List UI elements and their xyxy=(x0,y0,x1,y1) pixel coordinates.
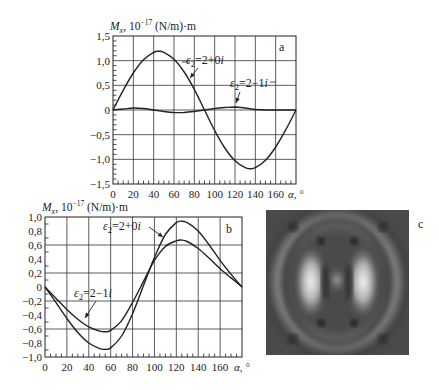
x-tick-label: 120 xyxy=(227,188,244,200)
x-tick-label: 100 xyxy=(206,188,223,200)
svg-text:ε2=2−1i: ε2=2−1i xyxy=(230,76,268,92)
series-annotation: ε2=2+0i xyxy=(103,219,163,237)
y-tick-labels: 1,00,80,60,40,20−0,2−0,4−0,6−0,8−1,0 xyxy=(22,211,42,363)
interference-pattern xyxy=(261,200,413,364)
x-axis-label: α, ° xyxy=(288,188,304,200)
chart-panel-a: 020406080100120140160α, °1,51,00,50−0,5−… xyxy=(90,18,304,200)
y-tick-label: 1,5 xyxy=(96,30,110,42)
svg-text:ε2=2−1i: ε2=2−1i xyxy=(74,286,112,302)
x-tick-label: 40 xyxy=(148,188,160,200)
x-tick-labels: 020406080100120140160 xyxy=(42,361,229,373)
x-tick-label: 20 xyxy=(61,361,73,373)
x-tick-label: 120 xyxy=(168,361,185,373)
y-tick-label: −0,6 xyxy=(22,323,42,335)
interference-image-panel-c: c xyxy=(261,200,423,364)
panel-letter-c: c xyxy=(418,217,423,231)
panel-letter-b: b xyxy=(226,222,232,236)
x-tick-label: 160 xyxy=(267,188,284,200)
y-tick-label: −0,5 xyxy=(90,129,110,141)
y-tick-labels: 1,51,00,50−0,5−1,0−1,5 xyxy=(90,30,110,190)
svg-text:ε2=2+0i: ε2=2+0i xyxy=(186,53,224,69)
y-tick-label: −1,0 xyxy=(90,153,110,165)
y-tick-label: −0,8 xyxy=(22,337,42,349)
y-axis-label: Mx, 10−17 (N/m)·m xyxy=(109,18,196,35)
y-tick-label: −1,0 xyxy=(22,351,42,363)
y-tick-label: 0,5 xyxy=(96,79,110,91)
y-tick-label: −0,4 xyxy=(22,309,42,321)
x-tick-label: 80 xyxy=(189,188,201,200)
series-annotation: ε2=2+0i xyxy=(182,53,224,78)
x-tick-label: 140 xyxy=(247,188,264,200)
y-tick-label: 0,4 xyxy=(28,253,42,265)
y-axis-label: Mx, 10−17 (N/m)·m xyxy=(41,199,128,216)
y-tick-label: −0,2 xyxy=(22,295,42,307)
x-tick-label: 20 xyxy=(128,188,140,200)
x-tick-label: 140 xyxy=(190,361,207,373)
y-tick-label: 0,8 xyxy=(28,225,42,237)
y-tick-label: 0 xyxy=(37,281,43,293)
x-tick-label: 0 xyxy=(42,361,48,373)
x-tick-label: 40 xyxy=(83,361,95,373)
y-tick-label: 0 xyxy=(105,104,111,116)
series-annotation: ε2=2−1i xyxy=(230,76,276,103)
x-tick-label: 80 xyxy=(127,361,139,373)
x-axis-label: α, ° xyxy=(234,361,250,373)
x-tick-label: 0 xyxy=(110,188,116,200)
svg-text:ε2=2+0i: ε2=2+0i xyxy=(103,219,141,235)
x-tick-label: 100 xyxy=(146,361,163,373)
y-tick-label: 1,0 xyxy=(28,211,42,223)
y-tick-label: 0,6 xyxy=(28,239,42,251)
series-annotation: ε2=2−1i xyxy=(74,286,112,318)
x-tick-label: 60 xyxy=(169,188,181,200)
chart-panel-b: 020406080100120140160α, °1,00,80,60,40,2… xyxy=(22,199,250,373)
x-tick-labels: 020406080100120140160 xyxy=(110,188,284,200)
y-tick-label: 1,0 xyxy=(96,55,110,67)
panel-letter-a: a xyxy=(279,40,285,54)
y-tick-label: 0,2 xyxy=(28,267,42,279)
figure: 020406080100120140160α, °1,51,00,50−0,5−… xyxy=(0,0,439,390)
x-tick-label: 160 xyxy=(212,361,229,373)
x-tick-label: 60 xyxy=(105,361,117,373)
y-tick-label: −1,5 xyxy=(90,178,110,190)
